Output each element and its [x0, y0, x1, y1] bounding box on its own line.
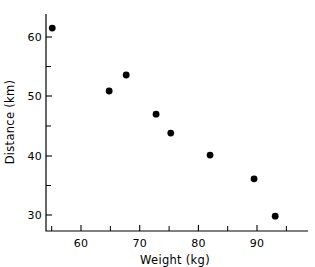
x-tick-label-90: 90	[250, 237, 264, 250]
data-point	[251, 175, 258, 182]
y-tick-label-50: 50	[28, 90, 42, 103]
data-point	[106, 88, 113, 95]
data-point	[49, 25, 56, 32]
data-point	[153, 111, 160, 118]
y-axis-title: Distance (km)	[3, 80, 17, 165]
data-point	[272, 213, 279, 220]
data-point	[167, 130, 174, 137]
data-point	[207, 152, 214, 159]
y-tick-label-40: 40	[28, 150, 42, 163]
y-tick-label-30: 30	[28, 209, 42, 222]
x-tick-label-80: 80	[191, 237, 205, 250]
x-axis-title: Weight (kg)	[140, 253, 210, 267]
scatter-plot-canvas: 60 50 40 30 60 70 80 90 Weight (kg) Dist…	[0, 0, 315, 267]
x-tick-label-70: 70	[132, 237, 146, 250]
chart-figure: 60 50 40 30 60 70 80 90 Weight (kg) Dist…	[0, 0, 315, 267]
x-tick-label-60: 60	[74, 237, 88, 250]
data-point	[123, 72, 130, 79]
plot-background	[0, 0, 315, 267]
y-tick-label-60: 60	[28, 31, 42, 44]
